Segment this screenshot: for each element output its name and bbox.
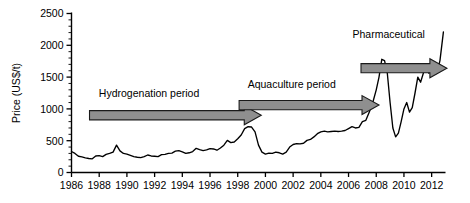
x-tick-label: 2012 bbox=[420, 179, 444, 191]
price-line-chart: 05001000150020002500 1986198819901992199… bbox=[0, 0, 470, 203]
x-tick-label: 2006 bbox=[337, 179, 361, 191]
x-tick-label: 1986 bbox=[60, 179, 84, 191]
annotation-arrow-hydrogenation bbox=[90, 106, 262, 125]
y-tick-label: 500 bbox=[46, 135, 64, 147]
annotations-group: Hydrogenation periodAquaculture periodPh… bbox=[90, 28, 447, 124]
y-tick-label: 1500 bbox=[40, 71, 64, 83]
y-tick-label: 2000 bbox=[40, 39, 64, 51]
y-axis-label: Price (US$/t) bbox=[10, 63, 22, 123]
annotation-arrow-pharmaceutical bbox=[361, 59, 447, 78]
x-tick-label: 1996 bbox=[198, 179, 222, 191]
x-axis: 1986198819901992199419961998200020022004… bbox=[60, 173, 446, 191]
annotation-arrow-aquaculture bbox=[239, 96, 379, 115]
y-tick-label: 1000 bbox=[40, 103, 64, 115]
annotation-label-aquaculture: Aquaculture period bbox=[248, 78, 336, 90]
x-tick-label: 1998 bbox=[226, 179, 250, 191]
x-tick-label: 2000 bbox=[254, 179, 278, 191]
x-tick-label: 2004 bbox=[309, 179, 333, 191]
x-tick-label: 1992 bbox=[143, 179, 167, 191]
y-axis-title: Price (US$/t) bbox=[10, 63, 22, 123]
y-tick-label: 2500 bbox=[40, 7, 64, 19]
x-tick-label: 1994 bbox=[171, 179, 195, 191]
y-tick-label: 0 bbox=[58, 166, 64, 178]
x-tick-label: 2002 bbox=[281, 179, 305, 191]
x-tick-label: 2008 bbox=[365, 179, 389, 191]
x-tick-label: 1990 bbox=[115, 179, 139, 191]
annotation-label-pharmaceutical: Pharmaceutical bbox=[353, 28, 425, 40]
y-axis: 05001000150020002500 bbox=[40, 7, 71, 178]
chart-container: 05001000150020002500 1986198819901992199… bbox=[0, 0, 470, 203]
annotation-label-hydrogenation: Hydrogenation period bbox=[99, 87, 200, 99]
x-tick-label: 1988 bbox=[88, 179, 112, 191]
x-tick-label: 2010 bbox=[392, 179, 416, 191]
